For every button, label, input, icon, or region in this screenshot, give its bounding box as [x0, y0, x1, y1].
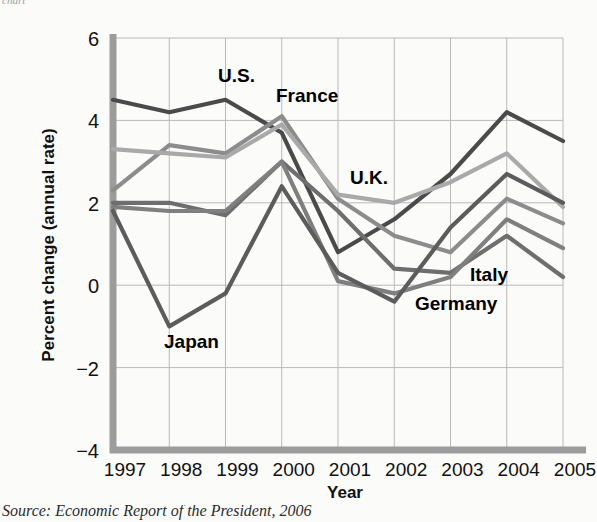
x-axis-title: Year: [327, 483, 363, 502]
x-tick-label: 2003: [441, 459, 483, 480]
y-tick-label: 2: [88, 193, 99, 215]
series-label-germany: Germany: [415, 293, 498, 314]
series-label-u-k: U.K.: [350, 167, 388, 188]
y-tick-label: 4: [88, 110, 99, 132]
line-chart: 6420−2−4 1997199819992000200120022003200…: [0, 0, 597, 505]
x-tick-label: 2000: [273, 459, 315, 480]
series-label-italy: Italy: [470, 264, 508, 285]
x-tick-label: 2004: [498, 459, 541, 480]
y-tick-labels: 6420−2−4: [76, 28, 99, 462]
series-label-france: France: [276, 85, 338, 106]
x-tick-label: 2001: [329, 459, 371, 480]
y-tick-label: 6: [88, 28, 99, 50]
x-tick-label: 2005: [554, 459, 596, 480]
x-tick-label: 1999: [216, 459, 258, 480]
source-note: Source: Economic Report of the President…: [0, 505, 597, 522]
figure-container: chart 6420−2−4 1997199819992000200120022…: [0, 0, 597, 522]
x-tick-labels: 199719981999200020012002200320042005: [104, 459, 596, 480]
series-label-japan: Japan: [164, 331, 219, 352]
y-axis-title: Percent change (annual rate): [39, 128, 58, 361]
x-tick-label: 1998: [160, 459, 202, 480]
x-tick-label: 2002: [385, 459, 427, 480]
series-label-u-s: U.S.: [218, 65, 255, 86]
y-tick-label: −2: [76, 358, 99, 380]
x-tick-label: 1997: [104, 459, 146, 480]
y-tick-label: 0: [88, 275, 99, 297]
y-tick-label: −4: [76, 440, 99, 462]
